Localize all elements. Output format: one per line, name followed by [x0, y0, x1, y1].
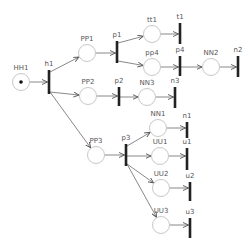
place-uu3[interactable] [153, 217, 170, 234]
arc-p3-to-nn1 [127, 132, 150, 146]
transition-label: p2 [115, 77, 124, 85]
place-pp4[interactable] [144, 59, 161, 76]
transition-label: p4 [176, 46, 185, 54]
transition-label: n3 [171, 77, 180, 85]
transition-label: p3 [122, 134, 131, 142]
petri-net-diagram: HH1PP1PP2PP3tt1pp4NN2NN3NN1UU1UU2UU3h1p1… [0, 0, 252, 249]
arc-p1-to-tt1 [118, 36, 143, 43]
arc-p3-to-uu2 [127, 164, 154, 183]
place-label: pp4 [145, 49, 159, 57]
transition-label: u2 [186, 172, 195, 180]
token-icon [19, 80, 23, 84]
place-uu2[interactable] [153, 180, 170, 197]
transition-label: p1 [113, 31, 122, 39]
transition-label: h1 [45, 60, 54, 68]
labels-layer: HH1PP1PP2PP3tt1pp4NN2NN3NN1UU1UU2UU3h1p1… [14, 13, 243, 216]
arc-h1-to-pp1 [50, 57, 79, 72]
place-pp2[interactable] [80, 88, 97, 105]
transition-label: n2 [234, 46, 243, 54]
transition-label: u3 [186, 208, 195, 216]
place-label: UU3 [154, 207, 169, 215]
place-pp3[interactable] [88, 147, 105, 164]
transition-label: u1 [183, 138, 192, 146]
place-nn3[interactable] [139, 89, 156, 106]
place-tt1[interactable] [144, 26, 161, 43]
arc-p3-to-uu3 [127, 164, 157, 217]
place-label: PP2 [82, 78, 95, 86]
transition-label: t1 [176, 13, 183, 21]
petri-net-canvas: HH1PP1PP2PP3tt1pp4NN2NN3NN1UU1UU2UU3h1p1… [0, 0, 252, 249]
place-label: UU1 [153, 138, 168, 146]
arc-p1-to-pp4 [118, 61, 143, 65]
place-label: PP1 [81, 35, 94, 43]
place-label: NN2 [204, 49, 219, 57]
transition-label: n1 [183, 112, 192, 120]
place-pp1[interactable] [79, 45, 96, 62]
place-label: tt1 [147, 16, 157, 24]
place-label: UU2 [154, 170, 169, 178]
place-label: NN1 [151, 110, 166, 118]
place-label: HH1 [14, 64, 29, 72]
place-nn1[interactable] [150, 120, 167, 137]
place-uu1[interactable] [152, 148, 169, 165]
place-label: NN3 [140, 79, 155, 87]
arc-h1-to-pp2 [50, 92, 79, 95]
place-label: PP3 [90, 137, 103, 145]
place-nn2[interactable] [203, 59, 220, 76]
